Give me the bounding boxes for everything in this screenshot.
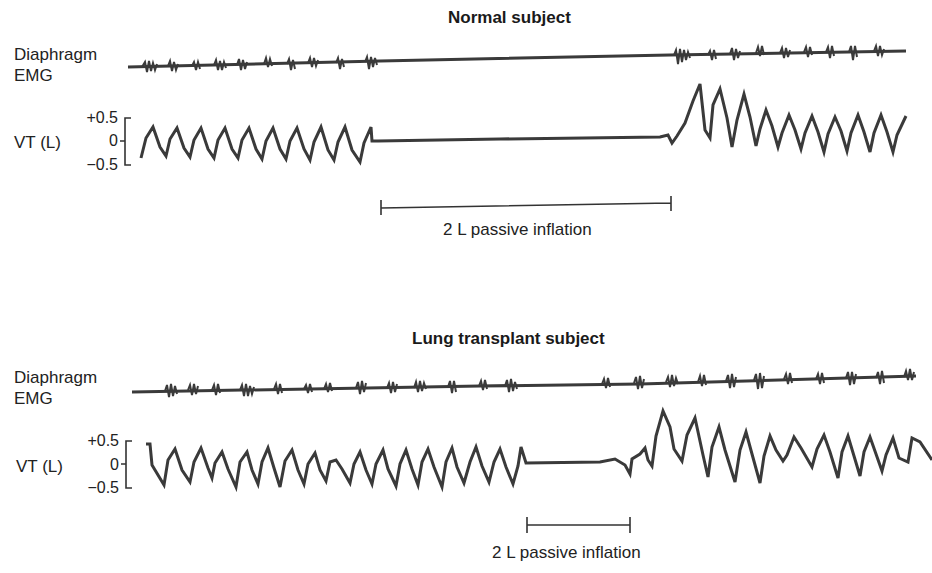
vt-trace-normal [141, 84, 906, 162]
vt-axis-normal [120, 118, 131, 165]
vt-axis-transplant [121, 441, 132, 488]
vt-trace-transplant [146, 411, 932, 487]
emg-trace-transplant [132, 369, 916, 397]
inflation-bracket-normal [381, 196, 671, 215]
emg-trace-normal [128, 46, 906, 72]
inflation-bracket-transplant [527, 517, 630, 533]
traces-canvas [0, 0, 932, 573]
